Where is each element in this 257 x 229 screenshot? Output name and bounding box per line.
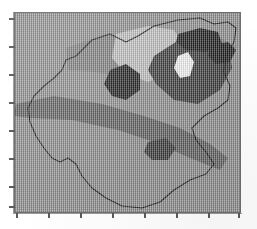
x-axis-tick bbox=[144, 213, 146, 218]
y-axis-tick bbox=[9, 186, 15, 188]
y-axis-tick bbox=[9, 102, 15, 104]
x-axis-tick bbox=[238, 213, 240, 218]
x-axis-tick bbox=[112, 213, 114, 218]
x-axis-tick bbox=[176, 213, 178, 218]
y-axis-tick bbox=[9, 158, 15, 160]
y-axis-tick bbox=[9, 130, 15, 132]
x-axis-tick bbox=[48, 213, 50, 218]
y-axis-tick bbox=[9, 206, 15, 208]
y-axis-tick bbox=[9, 74, 15, 76]
x-axis-tick bbox=[208, 213, 210, 218]
figure-canvas bbox=[0, 0, 257, 229]
y-axis-tick bbox=[9, 46, 15, 48]
x-axis-tick bbox=[16, 213, 18, 218]
y-axis-tick bbox=[9, 18, 15, 20]
plot-area bbox=[14, 12, 241, 213]
x-axis-tick bbox=[80, 213, 82, 218]
raster-map-image bbox=[14, 12, 241, 213]
